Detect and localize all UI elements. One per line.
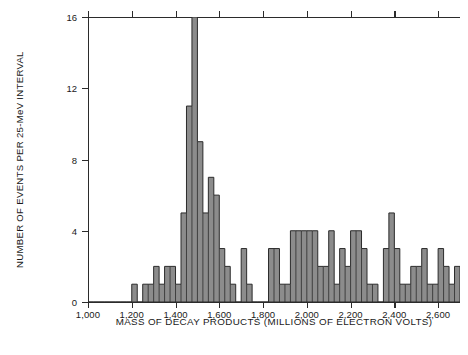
y-axis-title: NUMBER OF EVENTS PER 25-MeV INTERVAL bbox=[14, 17, 25, 302]
y-tick-label: 8 bbox=[72, 154, 77, 165]
histogram-bars bbox=[88, 17, 460, 302]
figure-caption bbox=[0, 344, 468, 355]
y-tick-label: 4 bbox=[72, 225, 77, 236]
y-tick-label: 12 bbox=[66, 83, 77, 94]
histogram-figure: NUMBER OF EVENTS PER 25-MeV INTERVAL 1,0… bbox=[0, 0, 468, 355]
x-axis-title: MASS OF DECAY PRODUCTS (MILLIONS OF ELEC… bbox=[88, 316, 460, 327]
x-tick bbox=[351, 302, 352, 308]
plot-area: 1,0001,2001,4001,6001,8002,0002,2002,400… bbox=[88, 17, 460, 302]
y-tick-label: 16 bbox=[66, 12, 77, 23]
x-axis-line bbox=[88, 302, 460, 303]
x-tick bbox=[219, 302, 220, 308]
y-tick-label: 0 bbox=[72, 297, 77, 308]
x-tick bbox=[307, 302, 308, 308]
x-tick bbox=[394, 302, 395, 308]
y-tick bbox=[82, 302, 88, 303]
x-tick bbox=[263, 302, 264, 308]
histogram-outline bbox=[88, 17, 460, 302]
x-tick bbox=[438, 302, 439, 308]
x-tick bbox=[132, 302, 133, 308]
x-tick bbox=[176, 302, 177, 308]
x-tick bbox=[88, 302, 89, 308]
